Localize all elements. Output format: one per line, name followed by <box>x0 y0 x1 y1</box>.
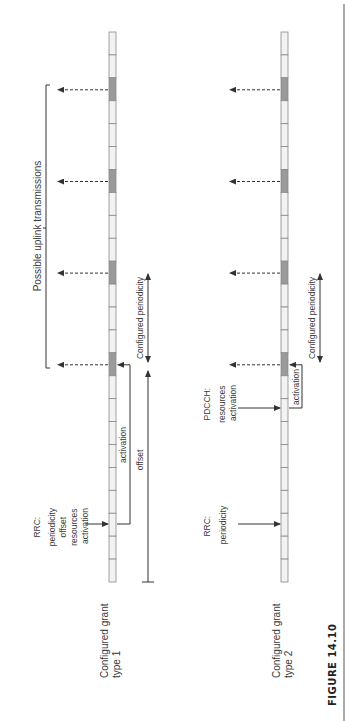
slot <box>109 55 116 78</box>
slot <box>281 284 288 307</box>
slot <box>109 192 116 215</box>
slot <box>109 422 116 445</box>
type1-rrc-label: RRC: periodicity offset resources activa… <box>32 506 90 547</box>
slot <box>281 101 288 124</box>
slot <box>109 467 116 490</box>
active-slot <box>109 78 116 101</box>
slot <box>281 307 288 330</box>
slot <box>281 330 288 353</box>
type2-rrc-label: RRC: periodicity <box>202 505 228 544</box>
type1-title: Configured grant type 1 <box>99 601 122 678</box>
active-slot <box>281 78 288 101</box>
active-slot <box>109 170 116 193</box>
type1-offset-label: offset <box>135 449 145 470</box>
slot <box>109 445 116 468</box>
uplink-label: Possible uplink transmissions <box>32 161 43 292</box>
slot <box>109 284 116 307</box>
uplink-bracket <box>43 85 50 368</box>
type1-activation-label: activation <box>118 427 128 463</box>
active-slot <box>281 353 288 376</box>
slot <box>281 490 288 513</box>
active-slot <box>109 261 116 284</box>
type1-timeline <box>109 32 116 582</box>
configured-grant-diagram: Possible uplink transmissions RRC: perio… <box>0 0 345 721</box>
type2-timeline <box>281 32 288 582</box>
slot <box>281 215 288 238</box>
active-slot <box>109 353 116 376</box>
slot <box>281 32 288 55</box>
type1-uplink-arrows <box>58 90 108 365</box>
type2-pdcch-label: PDCCH: resources activation <box>202 383 238 423</box>
slot <box>109 215 116 238</box>
active-slot <box>281 170 288 193</box>
slot <box>281 467 288 490</box>
slot <box>109 238 116 261</box>
slot <box>281 536 288 559</box>
figure-caption: FIGURE 14.10 <box>327 623 338 706</box>
slot <box>109 307 116 330</box>
slot <box>109 147 116 170</box>
slot <box>281 399 288 422</box>
slot <box>281 445 288 468</box>
type2-activation-label: activation <box>291 369 301 405</box>
slot <box>281 513 288 536</box>
slot <box>281 192 288 215</box>
slot <box>281 124 288 147</box>
slot <box>109 559 116 582</box>
type2-title: Configured grant type 2 <box>271 601 294 678</box>
slot <box>109 101 116 124</box>
slot <box>109 376 116 399</box>
slot <box>281 422 288 445</box>
type2-periodicity-label: Configured periodicity <box>307 276 317 359</box>
slot <box>281 376 288 399</box>
slot <box>109 32 116 55</box>
slot <box>281 238 288 261</box>
slot <box>109 513 116 536</box>
active-slot <box>281 261 288 284</box>
type1-periodicity-label: Configured periodicity <box>135 276 145 359</box>
slot <box>281 559 288 582</box>
slot <box>281 55 288 78</box>
slot <box>109 330 116 353</box>
slot <box>281 147 288 170</box>
slot <box>109 536 116 559</box>
slot <box>109 490 116 513</box>
slot <box>109 124 116 147</box>
type2-uplink-arrows <box>230 90 280 365</box>
slot <box>109 399 116 422</box>
